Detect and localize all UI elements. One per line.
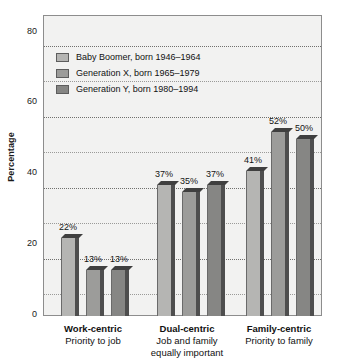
x-category-title: Work-centric	[47, 322, 139, 335]
x-category-subtitle-line1: Priority to job	[47, 335, 139, 347]
bar-value-label: 41%	[239, 155, 267, 165]
x-category-subtitle-line1: Job and family	[141, 335, 233, 347]
bar-face	[111, 270, 126, 316]
legend-item-baby-boomer[interactable]: Baby Boomer, born 1946–1964	[56, 50, 201, 65]
bar-top	[86, 266, 108, 270]
x-category-title: Family-centric	[233, 322, 325, 335]
bar-group-family-centric: 41% 52% 50%	[242, 15, 322, 316]
bar-work-centric-baby-boomer[interactable]	[61, 238, 75, 316]
x-category-family-centric: Family-centric Priority to family	[233, 322, 325, 347]
bar-value-label: 37%	[201, 169, 229, 179]
bar-side	[221, 185, 225, 316]
bar-face	[271, 132, 286, 316]
legend-item-generation-y[interactable]: Generation Y, born 1980–1994	[56, 82, 201, 97]
bar-side	[171, 185, 175, 316]
bar-top	[296, 135, 318, 139]
bar-family-centric-generation-x[interactable]	[271, 132, 285, 316]
bar-top	[61, 234, 83, 238]
bar-side	[75, 238, 79, 316]
y-tick-label-80: 80	[3, 26, 37, 36]
bar-work-centric-generation-y[interactable]	[111, 270, 125, 316]
y-tick-label-0: 0	[3, 309, 37, 319]
bar-face	[86, 270, 101, 316]
x-category-subtitle-line1: Priority to family	[233, 335, 325, 347]
bar-face	[296, 139, 311, 316]
bar-dual-centric-generation-x[interactable]	[182, 192, 196, 316]
legend-swatch-icon	[56, 69, 69, 78]
bar-side	[125, 270, 129, 316]
bar-side	[285, 132, 289, 316]
x-axis-labels: Work-centric Priority to job Dual-centri…	[43, 322, 322, 364]
bar-side	[196, 192, 200, 316]
bar-side	[100, 270, 104, 316]
x-category-title: Dual-centric	[141, 322, 233, 335]
bar-work-centric-generation-x[interactable]	[86, 270, 100, 316]
bar-face	[61, 238, 76, 316]
y-tick-label-40: 40	[3, 167, 37, 177]
bar-value-label: 37%	[150, 169, 178, 179]
bar-top	[246, 167, 268, 171]
legend-swatch-icon	[56, 85, 69, 94]
bar-family-centric-generation-y[interactable]	[296, 139, 310, 316]
legend-label: Baby Boomer, born 1946–1964	[76, 52, 201, 63]
x-category-work-centric: Work-centric Priority to job	[47, 322, 139, 347]
bar-face	[157, 185, 172, 316]
bar-value-label: 50%	[290, 123, 318, 133]
x-category-subtitle-line2: equally important	[141, 347, 233, 359]
bar-top	[111, 266, 133, 270]
y-axis-title: Percentage	[6, 122, 16, 192]
legend: Baby Boomer, born 1946–1964 Generation X…	[56, 50, 201, 98]
bar-dual-centric-baby-boomer[interactable]	[157, 185, 171, 316]
y-tick-label-60: 60	[3, 96, 37, 106]
bar-dual-centric-generation-y[interactable]	[207, 185, 221, 316]
legend-label: Generation X, born 1965–1979	[76, 68, 200, 79]
bar-value-label: 52%	[264, 116, 292, 126]
bar-value-label: 35%	[175, 176, 203, 186]
legend-swatch-icon	[56, 53, 69, 62]
legend-label: Generation Y, born 1980–1994	[76, 84, 198, 95]
bar-top	[182, 188, 204, 192]
bar-side	[310, 139, 314, 316]
bar-top	[207, 181, 229, 185]
legend-item-generation-x[interactable]: Generation X, born 1965–1979	[56, 66, 201, 81]
bar-value-label: 13%	[79, 254, 107, 264]
x-category-dual-centric: Dual-centric Job and family equally impo…	[141, 322, 233, 359]
bar-chart: Percentage 80 60 40 20 0	[0, 0, 339, 364]
bar-value-label: 22%	[54, 222, 82, 232]
y-tick-label-20: 20	[3, 238, 37, 248]
bar-value-label: 13%	[105, 254, 133, 264]
bar-face	[246, 171, 261, 316]
bar-face	[207, 185, 222, 316]
bar-family-centric-baby-boomer[interactable]	[246, 171, 260, 316]
bar-face	[182, 192, 197, 316]
bar-side	[260, 171, 264, 316]
